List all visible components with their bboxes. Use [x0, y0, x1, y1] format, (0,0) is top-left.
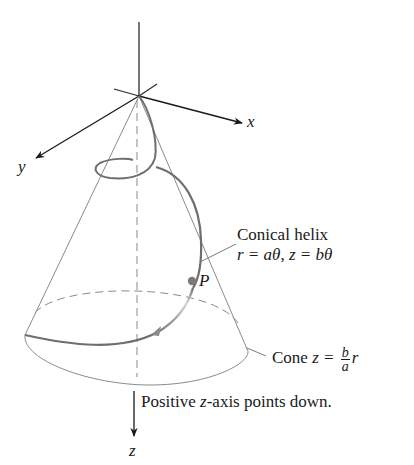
cone-fraction: ba	[341, 346, 350, 373]
axis-note-prefix: Positive	[141, 392, 200, 411]
helix-title: Conical helix	[237, 226, 328, 244]
axis-note-var: z	[200, 392, 207, 411]
axis-note-suffix: -axis points down.	[207, 392, 332, 411]
point-p-marker	[188, 277, 196, 285]
y-axis-arrow	[36, 96, 139, 158]
x-axis-label: x	[247, 113, 255, 131]
cone-lhs: z =	[312, 348, 339, 367]
cone-right-edge	[139, 96, 247, 349]
cone-rhs: r	[352, 348, 359, 367]
helix-top-loop	[96, 96, 156, 178]
z-axis-label: z	[129, 442, 136, 460]
helix-equation: r = aθ, z = bθ	[237, 246, 332, 264]
cone-frac-denominator: a	[341, 360, 350, 373]
axis-stub-left	[114, 89, 139, 96]
helix-middle-arc	[156, 167, 201, 288]
cone-equation-label: Cone z = bar	[272, 346, 358, 373]
helix-direction-arrow-icon	[151, 326, 161, 336]
y-axis-label: y	[18, 158, 26, 176]
axis-note: Positive z-axis points down.	[141, 393, 332, 411]
cone-base-front	[25, 335, 248, 385]
cone-left-edge	[25, 96, 139, 335]
x-axis-arrow	[139, 96, 242, 123]
point-p-label: P	[199, 272, 209, 290]
axis-stub-right	[139, 84, 157, 96]
cone-leader-line	[247, 348, 266, 356]
helix-leader-line	[200, 244, 236, 262]
cone-frac-numerator: b	[341, 346, 350, 360]
cone-prefix: Cone	[272, 348, 312, 367]
helix-bottom-arc	[25, 332, 158, 345]
